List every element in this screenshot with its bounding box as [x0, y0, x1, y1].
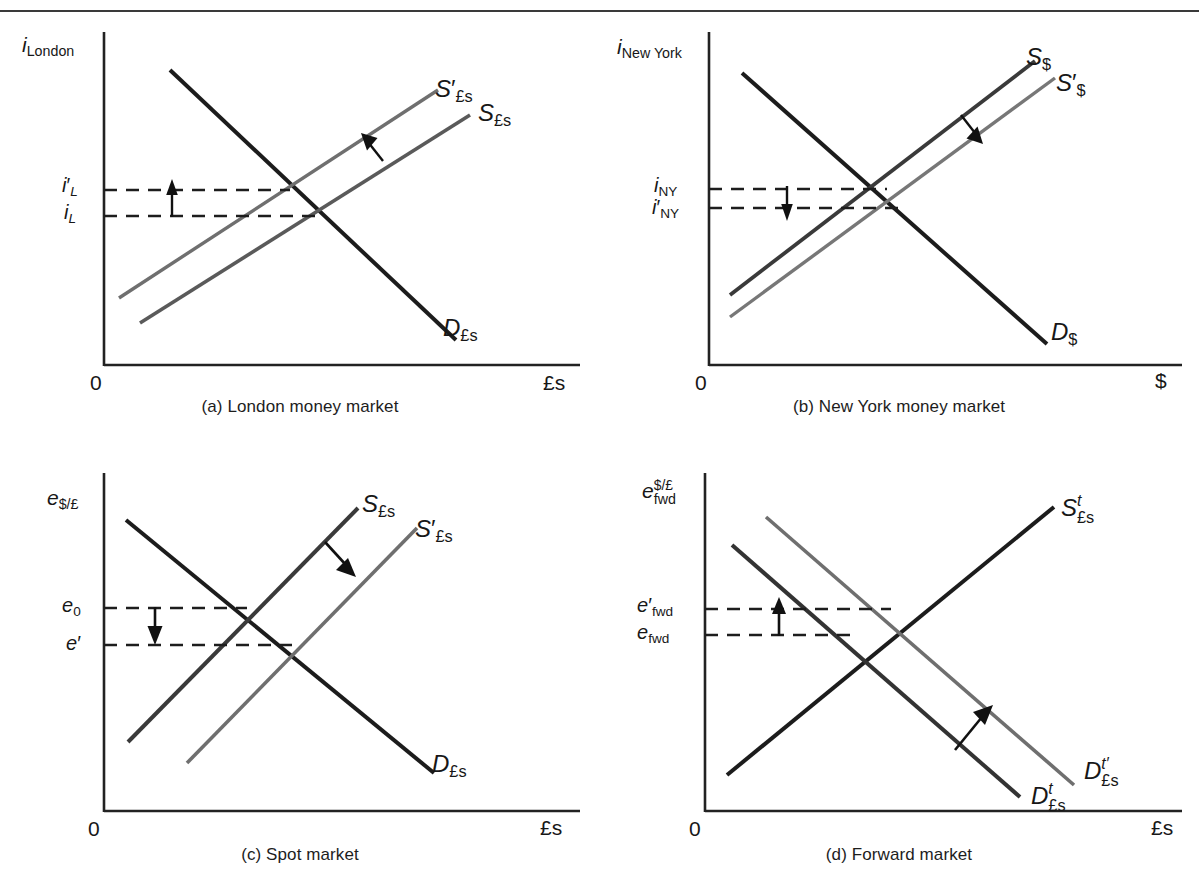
panel-a-y-axis-label: iLondon [22, 34, 74, 58]
panel-d-origin-label: 0 [689, 818, 701, 839]
panel-d-caption: (d) Forward market [599, 845, 1199, 865]
panel-d-tick-label-e-fwd-prime: e′fwd [637, 595, 673, 618]
panel-b-curve-label-supply: S$ [1026, 45, 1051, 72]
panel-b-supply-curve-shifted [730, 78, 1055, 317]
panel-new-york-money-market: iNew York iNY i′NY S$ S′$ D$ 0 $ (b) New… [599, 14, 1199, 414]
panel-a-curve-label-demand: D£s [443, 316, 478, 343]
panel-a-tick-label-i: iL [64, 202, 76, 225]
panel-a-shift-arrow [361, 133, 383, 161]
panel-a-caption: (a) London money market [0, 397, 600, 417]
panel-c-curve-label-supply: S£s [362, 492, 395, 519]
panel-d-curve-label-demand: Dt£s [1031, 781, 1066, 814]
panel-b-shift-arrow [961, 115, 983, 144]
panel-d-curve-label-supply: St£s [1061, 493, 1094, 526]
panel-b-y-axis-label: iNew York [617, 36, 682, 60]
panel-a-supply-curve [140, 115, 470, 323]
panel-a-rate-arrow-up [166, 179, 178, 217]
panel-b-caption: (b) New York money market [599, 397, 1199, 417]
panel-b-tick-label-i-ny-prime: i′NY [652, 197, 679, 220]
panel-a-origin-label: 0 [90, 372, 102, 393]
panel-b-x-axis-label: $ [1155, 370, 1167, 391]
panel-d-demand-curve [732, 545, 1020, 797]
figure-page: iLondon i′L iL S′£s S£s D£s 0 £s (a) Lon… [0, 0, 1199, 883]
panel-c-tick-label-e-prime: e′ [66, 633, 81, 653]
panel-c-origin-label: 0 [88, 818, 100, 839]
panel-d-demand-curve-shifted [766, 517, 1074, 785]
panel-b-origin-label: 0 [695, 372, 707, 393]
panel-london-money-market: iLondon i′L iL S′£s S£s D£s 0 £s (a) Lon… [0, 14, 600, 414]
panel-d-rate-arrow-up [772, 597, 786, 636]
panel-spot-market: e$/£ e0 e′ S£s S′£s D£s 0 £s (c) Spot ma… [0, 455, 600, 865]
panel-c-plot [0, 455, 600, 865]
panel-c-tick-label-e0: e0 [62, 595, 81, 618]
panel-c-curve-label-supply-shifted: S′£s [415, 517, 453, 544]
panel-a-curve-label-supply-shifted: S′£s [435, 77, 473, 104]
panel-b-plot [599, 14, 1199, 414]
panel-a-x-axis-label: £s [543, 372, 565, 393]
panel-b-rate-arrow-down [781, 186, 793, 221]
panel-d-x-axis-label: £s [1151, 817, 1173, 838]
panel-a-demand-curve [170, 70, 456, 340]
panel-b-tick-label-i-ny: iNY [654, 175, 677, 198]
panel-b-curve-label-demand: D$ [1051, 320, 1077, 347]
panel-a-plot [0, 14, 600, 414]
panel-d-plot [599, 455, 1199, 865]
panel-c-y-axis-label: e$/£ [47, 487, 79, 511]
panel-b-supply-curve [730, 61, 1035, 295]
panel-d-supply-curve [727, 507, 1054, 775]
panel-c-rate-arrow-down [148, 607, 163, 645]
panel-forward-market: e$/£fwd e′fwd efwd St£s Dt£s Dt′£s 0 £s … [599, 455, 1199, 865]
panel-c-caption: (c) Spot market [0, 845, 600, 865]
panel-c-x-axis-label: £s [540, 817, 562, 838]
panel-c-shift-arrow [325, 542, 356, 577]
panel-d-tick-label-e-fwd: efwd [637, 622, 669, 645]
top-divider-rule [0, 10, 1199, 12]
panel-d-curve-label-demand-shifted: Dt′£s [1084, 756, 1119, 789]
panel-c-curve-label-demand: D£s [432, 752, 467, 779]
panel-d-y-axis-label: e$/£fwd [642, 478, 676, 507]
panel-b-curve-label-supply-shifted: S′$ [1056, 71, 1086, 98]
panel-a-tick-label-i-prime: i′L [62, 175, 78, 198]
panel-a-curve-label-supply: S£s [478, 101, 511, 128]
panel-d-shift-arrow [955, 705, 993, 750]
